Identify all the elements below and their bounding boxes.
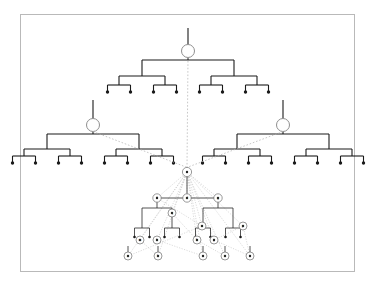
graph-node-d0-label: n [201,224,203,228]
left-tree-leaf [34,161,37,164]
right-tree-leaf [247,161,250,164]
top-tree-leaf [175,90,178,93]
top-tree-root-circle[interactable] [182,45,195,58]
right-tree-leaf [339,161,342,164]
top-tree-leaf [221,90,224,93]
graph-node-d4-label: j [213,238,215,242]
top-tree-leaf [198,90,201,93]
right-tree-root-circle[interactable] [277,119,290,132]
left-tree-leaf [80,161,83,164]
graph-node-c0-label: q [171,211,173,215]
cross-edge [214,240,250,256]
diagram-svg: rfdgqpnmkhjabcei [0,0,374,286]
left-tree-leaf [126,161,129,164]
right-tree-leaf [293,161,296,164]
right-subtree-tip [239,236,242,239]
right-tree-leaf [224,161,227,164]
graph-node-e3-label: e [224,254,226,258]
graph-node-d3-label: h [196,238,198,242]
apex-fan-edge [187,172,218,198]
graph-node-b0-label: f [157,196,158,200]
graph-node-b1-label: d [186,196,188,200]
top-tree-leaf [106,90,109,93]
graph-node-e0-label: a [127,254,129,258]
apex-fan-edge [172,172,187,213]
graph-node-e2-label: c [202,254,204,258]
top-tree-leaf [129,90,132,93]
right-tree-leaf [316,161,319,164]
figure-canvas: rfdgqpnmkhjabcei [0,0,374,286]
top-tree-leaf [152,90,155,93]
graph-node-d2-label: k [156,238,158,242]
left-subtree-tip [148,236,151,239]
graph-node-c1-label: p [242,224,244,228]
left-subtree-tip [178,236,181,239]
right-tree-leaf [362,161,365,164]
graph-node-b2-label: g [217,196,219,200]
left-tree-root-circle[interactable] [87,119,100,132]
dashed-link-top-tree [187,58,188,168]
apex-fan-edge [187,172,225,256]
left-tree-leaf [149,161,152,164]
top-tree-leaf [267,90,270,93]
top-tree-leaf [244,90,247,93]
left-subtree-tip [133,236,136,239]
left-tree-leaf [103,161,106,164]
cross-edge [172,213,197,240]
right-subtree-tip [224,236,227,239]
right-tree-leaf [270,161,273,164]
graph-node-d1-label: m [139,238,142,242]
left-tree-leaf [11,161,14,164]
left-tree-leaf [57,161,60,164]
left-subtree-tip [163,236,166,239]
graph-node-e1-label: b [157,254,159,258]
left-tree-leaf [172,161,175,164]
apex-fan-edge [157,172,187,240]
apex-fan-edge [140,172,187,240]
